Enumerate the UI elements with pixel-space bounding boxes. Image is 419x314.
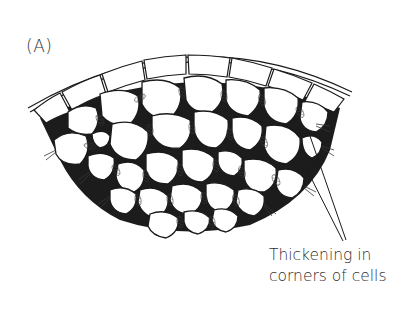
callout-label: Thickening in corners of cells: [269, 245, 386, 287]
collenchyma-diagram: (A): [0, 0, 419, 314]
callout-line-1: Thickening in: [269, 245, 386, 266]
callout-line-2: corners of cells: [269, 266, 386, 287]
